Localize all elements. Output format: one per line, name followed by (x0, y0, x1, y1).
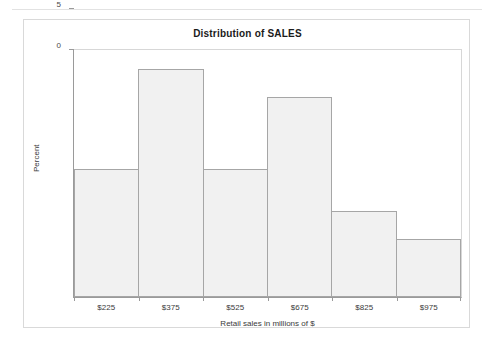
x-axis-labels: $225 $375 $525 $675 $825 $975 (74, 303, 461, 312)
x-tick (397, 297, 398, 301)
x-tick-label: $975 (397, 303, 462, 312)
scanned-page: Distribution of SALES Percent 0 5 10 15 … (0, 0, 493, 347)
x-tick (139, 297, 140, 301)
x-axis-title: Retail sales in millions of $ (74, 319, 461, 328)
plot-area: 0 5 10 15 20 25 30 (73, 49, 462, 298)
y-tick: 5 (69, 8, 74, 9)
bar-0 (74, 169, 139, 297)
y-tick-label: 5 (57, 0, 61, 8)
bar-3 (267, 97, 332, 297)
bar-5 (396, 239, 461, 297)
x-tick-label: $825 (332, 303, 397, 312)
x-tick-label: $375 (139, 303, 204, 312)
x-axis-ticks (74, 297, 461, 301)
x-tick (460, 297, 461, 301)
page-top-rule (12, 9, 482, 10)
x-tick-label: $675 (268, 303, 333, 312)
bar-2 (203, 169, 268, 297)
chart-title: Distribution of SALES (24, 28, 471, 39)
x-tick (74, 297, 75, 301)
x-tick-label: $225 (74, 303, 139, 312)
y-axis-title: Percent (32, 144, 41, 172)
y-tick-label: 0 (57, 41, 61, 50)
bar-4 (331, 211, 396, 297)
chart-container: Distribution of SALES Percent 0 5 10 15 … (23, 19, 470, 328)
bar-series (74, 50, 461, 297)
x-tick (332, 297, 333, 301)
x-tick-label: $525 (203, 303, 268, 312)
x-tick (268, 297, 269, 301)
bar-1 (138, 69, 203, 297)
x-tick (203, 297, 204, 301)
